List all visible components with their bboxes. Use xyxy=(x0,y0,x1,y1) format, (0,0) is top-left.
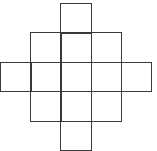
grid-cell-r0-c2 xyxy=(60,3,92,34)
grid-cell-r4-c2 xyxy=(60,121,92,151)
grid-cell-r1-c1 xyxy=(30,32,62,63)
grid-cell-r2-c1 xyxy=(30,62,62,93)
grid-cell-r2-c4 xyxy=(121,62,153,93)
square-grid-diagram xyxy=(0,0,157,151)
grid-cell-r2-c0 xyxy=(0,62,32,93)
grid-cell-r2-c3 xyxy=(91,62,123,93)
grid-cell-r1-c3 xyxy=(91,32,123,63)
grid-cell-r3-c2 xyxy=(60,91,92,122)
grid-cell-r2-c2 xyxy=(60,62,92,93)
grid-cell-r1-c2 xyxy=(60,32,92,63)
grid-cell-r3-c3 xyxy=(91,91,123,122)
grid-cell-r3-c1 xyxy=(30,91,62,122)
